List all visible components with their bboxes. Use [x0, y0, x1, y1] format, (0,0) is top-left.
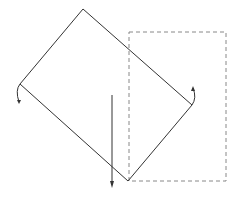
rotation-arrow-left-head: [17, 100, 21, 104]
rotation-arrow-right-head: [191, 86, 195, 91]
dashed-rectangle: [129, 32, 226, 181]
diagram-canvas: [0, 0, 238, 197]
rotated-rectangle: [20, 9, 192, 181]
vertical-arrow-head: [110, 181, 114, 188]
rotation-arrow-left: [17, 84, 20, 102]
